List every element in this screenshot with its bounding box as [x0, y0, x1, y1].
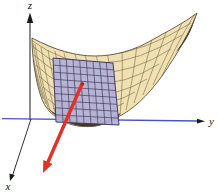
surface-gradient-figure: z y x	[0, 0, 218, 194]
z-axis: z	[27, 0, 33, 120]
x-axis: x	[5, 119, 31, 192]
x-axis-line	[13, 119, 32, 176]
z-axis-label: z	[27, 0, 33, 11]
tangent-plane	[53, 58, 119, 125]
x-axis-label: x	[5, 180, 11, 192]
point-on-plane-dot	[81, 82, 85, 86]
y-axis-arrowhead-icon	[197, 119, 205, 124]
z-axis-arrowhead-icon	[27, 13, 33, 24]
y-axis-label: y	[208, 115, 214, 127]
figure-canvas: z y x	[0, 0, 218, 194]
